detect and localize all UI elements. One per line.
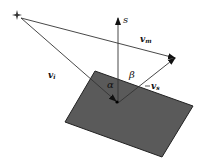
diagram-svg: s vm vi α β vs (0, 0, 203, 166)
mirror-vector-label: vm (140, 34, 152, 44)
beta-label: β (128, 69, 135, 80)
reflection-diagram: s vm vi α β vs (0, 0, 203, 166)
normal-label: s (123, 14, 128, 25)
light-source-icon (12, 10, 22, 20)
incident-vector-label: vi (48, 70, 56, 80)
reflection-point (115, 100, 118, 103)
surface-plane (65, 71, 193, 157)
alpha-label: α (107, 79, 114, 90)
reflected-vector-label: vs (151, 81, 160, 91)
